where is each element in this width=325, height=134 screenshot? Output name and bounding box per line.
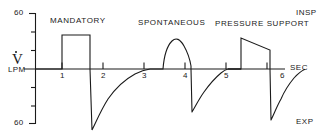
y-axis-unit-label: LPM: [8, 66, 26, 74]
x-axis-tick-3: 3: [142, 72, 147, 80]
y-axis-top-value: 60: [14, 9, 24, 17]
y-axis-bottom-value: 60: [14, 119, 24, 127]
inspiration-region-label: INSP: [296, 9, 317, 17]
x-axis-unit-label: SEC: [290, 64, 308, 72]
x-axis-tick-5: 5: [224, 72, 229, 80]
mode-label-pressure-support: PRESSURE SUPPORT: [215, 20, 309, 28]
waveform-mandatory: [36, 35, 150, 130]
mode-label-mandatory: MANDATORY: [50, 17, 106, 25]
x-axis-tick-2: 2: [101, 72, 106, 80]
ventilator-flow-waveform-figure: 60 60 V LPM 1 2 3 4 5 6 SEC MANDATORY SP…: [0, 0, 325, 134]
waveform-pressure-support-inspiration: [228, 38, 270, 69]
x-axis-ticks: [62, 63, 267, 70]
mode-label-spontaneous: SPONTANEOUS: [138, 19, 205, 27]
x-axis-tick-1: 1: [60, 72, 65, 80]
waveform-spontaneous: [150, 39, 228, 112]
v-dot-accent-icon: [15, 51, 17, 53]
x-axis-tick-6: 6: [280, 72, 285, 80]
expiration-region-label: EXP: [296, 118, 314, 126]
waveform-pressure-support-expiration: [270, 69, 305, 120]
x-axis-tick-4: 4: [183, 72, 188, 80]
